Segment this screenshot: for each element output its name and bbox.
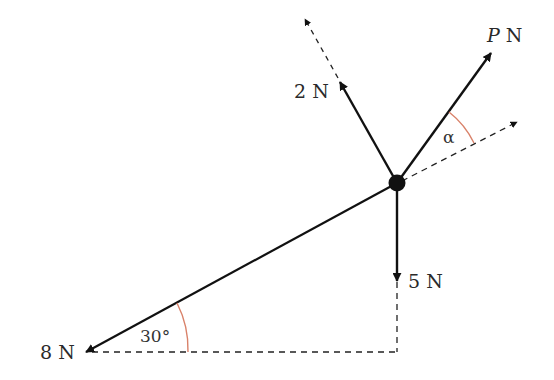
- force-8n-arrow: [86, 183, 397, 352]
- angle-30-label: 30°: [140, 326, 170, 346]
- force-5n-label: 5 N: [408, 270, 443, 292]
- force-p-label: P N: [486, 24, 522, 46]
- line-2n-extension-dashed: [305, 19, 338, 78]
- force-2n-label: 2 N: [294, 80, 329, 102]
- diagram-canvas: 8 N 5 N 2 N P N 30° α: [0, 0, 554, 380]
- force-8n-label: 8 N: [40, 341, 75, 363]
- force-2n-arrow: [340, 82, 397, 183]
- force-diagram: 8 N 5 N 2 N P N 30° α: [0, 0, 554, 380]
- force-p-arrow: [397, 53, 491, 183]
- particle-dot: [389, 175, 406, 192]
- angle-30-arc: [177, 303, 188, 352]
- force-p-symbol: P: [486, 24, 501, 46]
- angle-alpha-label: α: [443, 127, 455, 147]
- force-p-unit: N: [500, 24, 523, 46]
